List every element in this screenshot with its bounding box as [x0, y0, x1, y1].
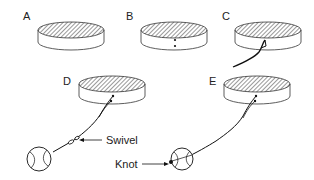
- hole-icon: [174, 39, 176, 41]
- cylinder-c: [235, 22, 301, 50]
- hole-icon: [174, 45, 176, 47]
- ball-icon: [27, 147, 51, 171]
- ball-icon: [171, 148, 193, 170]
- cylinder-d: [79, 76, 145, 104]
- cord: [183, 96, 256, 159]
- cylinder-a: [38, 22, 104, 50]
- panel-label-a: A: [23, 10, 31, 22]
- panel-label-c: C: [222, 10, 230, 22]
- panel-label-d: D: [63, 75, 71, 87]
- knot-annotation: Knot: [115, 158, 138, 170]
- swivel-annotation: Swivel: [106, 134, 138, 146]
- panel-a: A: [23, 10, 104, 50]
- swivel-icon: [68, 136, 80, 145]
- knot-icon: [169, 160, 173, 164]
- cylinder-e: [224, 76, 290, 104]
- panel-d: D Swivel: [27, 75, 145, 171]
- cylinder-b: [141, 22, 207, 50]
- panel-label-b: B: [126, 10, 133, 22]
- panel-c: C: [222, 10, 301, 67]
- diagram-canvas: A B C D: [0, 0, 314, 180]
- cord: [53, 96, 113, 152]
- panel-label-e: E: [209, 75, 216, 87]
- panel-b: B: [126, 10, 207, 50]
